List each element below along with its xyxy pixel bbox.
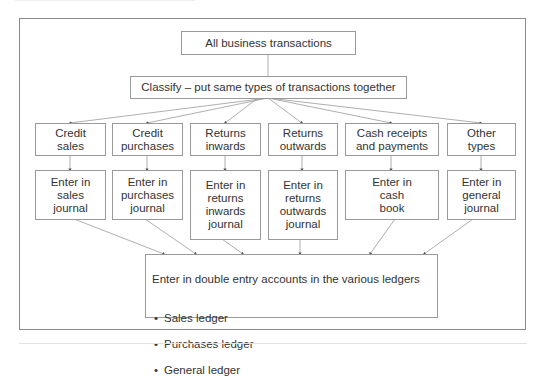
journal-general: Enter in general journal (447, 170, 516, 220)
category-returns-inwards: Returns inwards (190, 123, 261, 156)
journal-returns-outwards: Enter in returns outwards journal (268, 170, 338, 240)
journal-cash-book: Enter in cash book (345, 170, 439, 220)
ledger-list: Sales ledger Purchases ledger General le… (152, 299, 420, 380)
ledger-item: Sales ledger (152, 312, 420, 325)
classify-box: Classify – put same types of transaction… (130, 76, 407, 99)
category-returns-outwards: Returns outwards (268, 123, 338, 156)
journal-purchases: Enter in purchases journal (112, 170, 183, 220)
journal-returns-inwards: Enter in returns inwards journal (190, 170, 261, 240)
category-credit-purchases: Credit purchases (112, 123, 183, 156)
all-transactions-box: All business transactions (181, 31, 356, 55)
category-cash-receipts-payments: Cash receipts and payments (345, 123, 439, 156)
bottom-rule (19, 343, 527, 344)
category-credit-sales: Credit sales (35, 123, 106, 156)
ledgers-title: Enter in double entry accounts in the va… (152, 273, 420, 286)
ledger-item: General ledger (152, 364, 420, 377)
ledger-item: Purchases ledger (152, 338, 420, 351)
journal-sales: Enter in sales journal (35, 170, 106, 220)
category-other-types: Other types (447, 123, 516, 156)
ledgers-box: Enter in double entry accounts in the va… (145, 254, 438, 318)
